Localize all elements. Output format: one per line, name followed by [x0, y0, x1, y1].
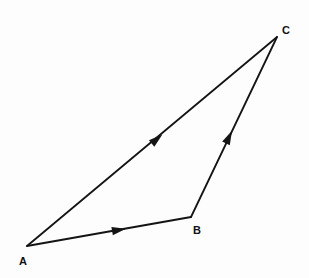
vertex-label-a: A [19, 255, 27, 267]
vertex-label-b: B [193, 224, 201, 236]
vertex-label-c: C [282, 24, 290, 36]
vector-diagram-root: A B C [0, 0, 309, 278]
vector-diagram-canvas: A B C [0, 0, 309, 278]
